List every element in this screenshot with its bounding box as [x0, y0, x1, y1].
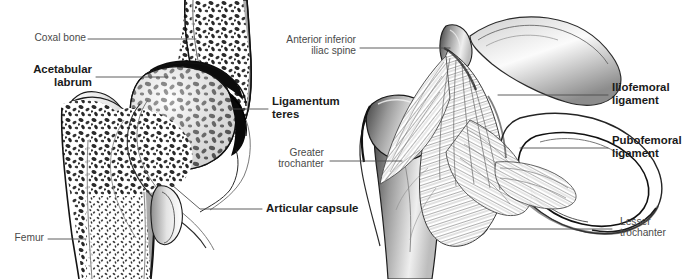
label-anterior-inferior-iliac-spine: Anterior inferior iliac spine: [258, 34, 356, 57]
anatomy-figure: Coxal bone Acetabular labrum Femur Artic…: [0, 0, 688, 279]
label-coxal-bone: Coxal bone: [8, 32, 86, 43]
label-pubofemoral-ligament: Pubofemoral ligament: [612, 134, 688, 160]
label-iliofemoral-ligament: Iliofemoral ligament: [612, 81, 688, 107]
label-articular-capsule: Articular capsule: [266, 202, 390, 215]
label-acetabular-labrum: Acetabular labrum: [4, 63, 92, 89]
label-femur: Femur: [4, 232, 44, 243]
label-lesser-trochanter: Lesser trochanter: [620, 216, 686, 239]
label-greater-trochanter: Greater trochanter: [254, 147, 324, 170]
label-ligamentum-teres: Ligamentum teres: [272, 95, 368, 121]
